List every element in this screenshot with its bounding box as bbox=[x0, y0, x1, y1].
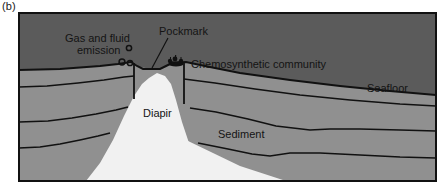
label-gas-and-fluid-line2: emission bbox=[77, 44, 120, 56]
label-seafloor: Seafloor bbox=[367, 82, 408, 94]
cross-section-diagram: Gas and fluid emission Pockmark Chemosyn… bbox=[0, 0, 447, 191]
label-diapir: Diapir bbox=[143, 107, 172, 119]
label-chemosynthetic-community: Chemosynthetic community bbox=[191, 58, 327, 70]
label-sediment: Sediment bbox=[218, 128, 264, 140]
label-gas-and-fluid-line1: Gas and fluid bbox=[65, 32, 130, 44]
label-pockmark: Pockmark bbox=[159, 25, 208, 37]
figure-panel: (b) bbox=[0, 0, 447, 191]
